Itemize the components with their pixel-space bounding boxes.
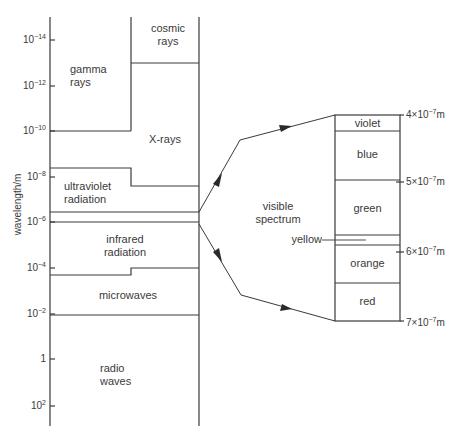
wavelength-5e-7: 5×10−7m [406,176,445,188]
region-infrared: infraredradiation [95,233,155,259]
tick-label: 10−6 [14,216,46,228]
arrow-right-icon [279,125,292,132]
band-red: red [335,295,400,308]
band-blue: blue [335,148,400,161]
tick-label: 10−10 [14,125,46,137]
band-green: green [335,202,400,215]
tick-label: 10−2 [14,308,46,320]
region-microwaves: microwaves [88,289,168,302]
ir-microwave-boundary [50,268,199,275]
tick-label: 10−12 [14,80,46,92]
tick-label: 102 [14,400,46,412]
y-ticks [50,40,55,406]
region-x-rays: X-rays [135,133,195,146]
visible-spectrum-label: visiblespectrum [248,200,308,226]
region-cosmic-rays: cosmicrays [140,22,196,48]
arrow-right-icon [280,304,292,311]
region-radio-waves: radiowaves [100,362,150,388]
region-ultraviolet: ultravioletradiation [64,180,124,206]
wavelength-7e-7: 7×10−7m [406,317,445,329]
wavelength-6e-7: 6×10−7m [406,246,445,258]
visible-spectrum-box [335,115,400,321]
band-violet: violet [335,117,400,130]
tick-label: 10−4 [14,262,46,274]
upper-expansion-line [199,115,335,212]
region-gamma-rays: gammarays [70,63,120,89]
tick-label: 10−14 [14,34,46,46]
band-orange: orange [335,257,400,270]
wavelength-4e-7: 4×10−7m [406,109,445,121]
tick-label: 10−8 [14,171,46,183]
band-yellow: yellow [288,233,322,246]
tick-label: 1 [14,353,46,365]
